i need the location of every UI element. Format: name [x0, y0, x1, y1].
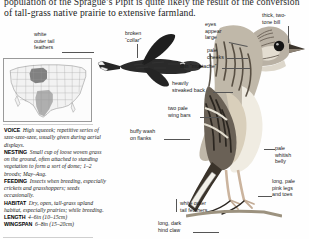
leader-line-long-dark-hind-claw [193, 232, 219, 233]
callout-two-pale-wing-bars: two pale wing bars [168, 105, 202, 118]
leader-line-pale-whitish-belly [264, 149, 275, 150]
callout-white-outer-tail-feathers-flight: white outer tail feathers [34, 31, 78, 51]
callout-long-dark-hind-claw: long, dark hind claw [158, 220, 194, 233]
fact-key-feeding: FEEDING [4, 178, 27, 184]
leader-line-two-pale-wing-bars [200, 117, 222, 118]
leader-line-white-outer-tail-feathers-flight [62, 52, 94, 53]
fact-row-feeding: FEEDINGInsects when breeding, especially… [4, 178, 108, 200]
callout-eyes-appear-large: eyes appear large [205, 21, 233, 41]
leader-line-long-pale-pink-legs-and-toes [258, 196, 272, 197]
species-facts-block: VOICEHigh squeeek; repetitive series of … [4, 127, 108, 229]
callout-buffy-wash-on-flanks: buffy wash on flanks [130, 128, 166, 141]
intro-paragraph-line-1: population of the Sprague’s Pipit is qui… [4, 0, 300, 7]
callout-pale-whitish-belly: pale whitish belly [275, 145, 305, 165]
fact-row-wingspan: WINGSPAN6–8in (15–20cm) [4, 221, 108, 228]
leader-line-broken-collar [137, 44, 138, 58]
rule-above-facts [3, 124, 93, 125]
callout-white-outer-tail-feathers-perched: white outer tail feathers [180, 200, 224, 213]
fact-key-wingspan: WINGSPAN [4, 221, 32, 227]
leader-line-pale-cheeks [226, 58, 248, 59]
fact-value-length: 4–6in (10–15cm) [28, 214, 67, 220]
callout-broken-collar: broken “collar” [125, 30, 159, 43]
range-map-graphic [4, 59, 91, 121]
intro-paragraph-line-2: of tall-grass native prairie to extensiv… [4, 7, 196, 18]
fact-row-voice: VOICEHigh squeeek; repetitive series of … [4, 127, 108, 149]
leader-line-thick-two-tone-bill [288, 26, 289, 43]
leader-line-buffy-wash-on-flanks [164, 139, 190, 140]
callout-thick-two-tone-bill: thick, two- tone bill [262, 12, 302, 25]
fact-row-nesting: NESTINGSmall cup of loose woven grass on… [4, 149, 108, 178]
fact-row-habitat: HABITATDry, open, tall-grass upland habi… [4, 200, 108, 215]
fact-key-length: LENGTH [4, 214, 25, 220]
fact-key-habitat: HABITAT [4, 200, 26, 206]
leader-line-thin-mustache [222, 68, 250, 69]
fact-key-nesting: NESTING [4, 149, 27, 155]
callout-long-pale-pink-legs-and-toes: long, pale pink legs and toes [272, 178, 306, 198]
fact-row-length: LENGTH4–6in (10–15cm) [4, 214, 108, 221]
fact-key-voice: VOICE [4, 127, 20, 133]
callout-thin-mustache: thin “mustache” [180, 63, 228, 70]
field-guide-page: population of the Sprague’s Pipit is qui… [0, 0, 309, 239]
leader-line-white-outer-tail-feathers-perched [176, 199, 177, 212]
leader-line-heavily-streaked-back [213, 92, 233, 93]
rule-below-facts [3, 237, 93, 238]
range-map [3, 58, 92, 122]
fact-value-wingspan: 6–8in (15–20cm) [35, 221, 74, 227]
callout-heavily-streaked-back: heavily streaked back [172, 80, 214, 93]
